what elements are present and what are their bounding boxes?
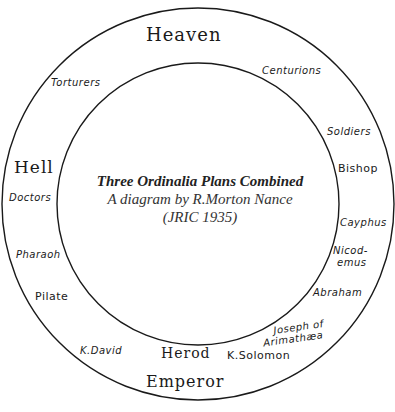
- ordinalia-diagram: Three Ordinalia Plans Combined A diagram…: [0, 0, 395, 412]
- region-hell: Hell: [14, 159, 54, 176]
- station-k-solomon: K.Solomon: [227, 350, 290, 361]
- station-doctors: Doctors: [9, 193, 51, 203]
- station-pharaoh: Pharaoh: [16, 250, 61, 260]
- station-centurions: Centurions: [262, 66, 321, 76]
- diagram-title: Three Ordinalia Plans Combined: [80, 172, 320, 190]
- station-abraham: Abraham: [313, 288, 362, 298]
- station-pilate: Pilate: [35, 291, 68, 302]
- station-nicodemus: Nicod- emus: [333, 246, 368, 268]
- station-cayphus: Cayphus: [340, 218, 387, 228]
- station-herod: Herod: [161, 346, 211, 360]
- station-torturers: Torturers: [51, 78, 100, 88]
- region-emperor: Emperor: [146, 374, 225, 390]
- diagram-caption: Three Ordinalia Plans Combined A diagram…: [80, 172, 320, 226]
- station-nicodemus-line2: emus: [337, 258, 368, 268]
- region-heaven: Heaven: [146, 26, 222, 44]
- station-nicodemus-line1: Nicod-: [333, 246, 368, 256]
- station-k-david: K.David: [80, 346, 122, 356]
- station-bishop: Bishop: [338, 163, 378, 174]
- station-soldiers: Soldiers: [327, 127, 371, 137]
- diagram-citation: (JRIC 1935): [80, 208, 320, 226]
- diagram-subtitle: A diagram by R.Morton Nance: [80, 190, 320, 208]
